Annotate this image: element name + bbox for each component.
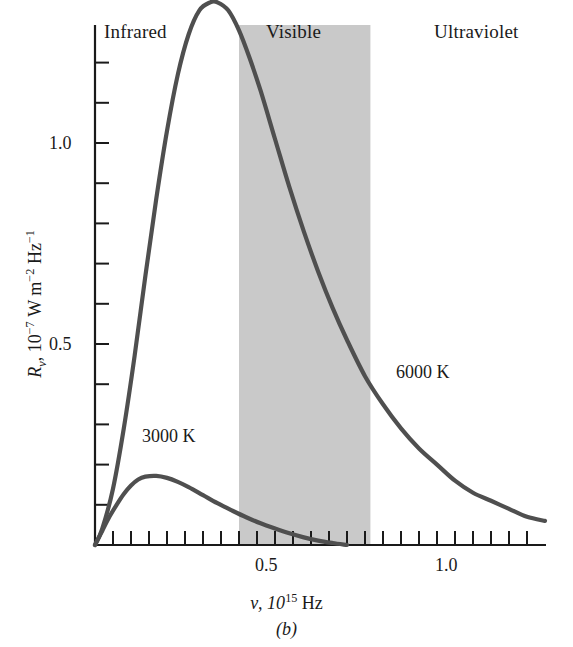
x-axis-tick-label-0-5: 0.5 xyxy=(255,556,278,574)
x-axis-title-suffix: Hz xyxy=(297,593,323,613)
region-label-visible: Visible xyxy=(266,22,321,41)
x-axis-title: ν, 1015 Hz xyxy=(0,592,573,612)
x-axis-tick-label-1-0: 1.0 xyxy=(435,556,458,574)
y-axis-title-subscript: ν xyxy=(35,361,49,366)
y-axis-tick-label-0-5: 0.5 xyxy=(49,335,72,353)
y-axis-title-rest: , 10 xyxy=(25,334,45,361)
blackbody-radiation-figure: Infrared Visible Ultraviolet 3000 K 6000… xyxy=(0,0,573,647)
y-axis-title-units-exp-b: −1 xyxy=(23,230,37,243)
region-label-infrared: Infrared xyxy=(104,22,167,41)
plot-canvas xyxy=(0,0,573,647)
y-axis-title-exponent: −7 xyxy=(23,321,37,334)
y-axis-title-units-exp-a: −2 xyxy=(23,269,37,282)
y-axis-title-units-a: W m xyxy=(25,282,45,322)
visible-region-band xyxy=(239,25,370,545)
y-axis-title-symbol: R xyxy=(25,367,45,378)
y-axis-tick-label-1-0: 1.0 xyxy=(49,134,72,152)
curve-label-3000k: 3000 K xyxy=(142,427,196,445)
curve-label-6000k: 6000 K xyxy=(396,363,450,381)
y-axis-title-units-b: Hz xyxy=(25,243,45,269)
y-axis-title: Rν, 10−7 W m−2 Hz−1 xyxy=(24,154,48,454)
x-axis-title-exponent: 15 xyxy=(285,591,297,605)
figure-caption: (b) xyxy=(0,620,573,638)
x-axis-title-prefix: ν, 10 xyxy=(250,593,285,613)
region-label-ultraviolet: Ultraviolet xyxy=(434,22,519,41)
y-axis-ticks xyxy=(95,63,109,505)
